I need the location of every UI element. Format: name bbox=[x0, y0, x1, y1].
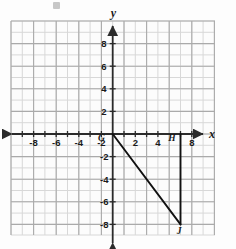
y-tick-label-2: 2 bbox=[101, 106, 106, 117]
y-tick-label-4: 4 bbox=[101, 83, 107, 94]
x-tick-label-neg8: -8 bbox=[29, 137, 37, 148]
y-tick-label-neg6: -6 bbox=[100, 196, 108, 207]
vertex-label-g: G bbox=[98, 133, 105, 143]
x-tick-label-8: 8 bbox=[189, 137, 194, 148]
figure-container: -8 -6 -4 -2 2 4 8 8 6 4 2 -2 -4 -6 -8 G … bbox=[0, 0, 236, 249]
x-tick-label-4: 4 bbox=[155, 137, 161, 148]
y-axis-name: y bbox=[109, 6, 117, 20]
vertex-label-j: J bbox=[176, 226, 182, 236]
y-tick-label-neg8: -8 bbox=[100, 219, 108, 230]
x-tick-label-neg4: -4 bbox=[75, 137, 84, 148]
vertex-label-h: H bbox=[167, 133, 176, 143]
x-tick-label-2: 2 bbox=[133, 137, 138, 148]
y-tick-label-neg2: -2 bbox=[100, 151, 108, 162]
x-tick-label-neg6: -6 bbox=[52, 137, 60, 148]
y-tick-label-neg4: -4 bbox=[100, 174, 109, 185]
y-tick-label-6: 6 bbox=[101, 61, 106, 72]
coordinate-plane-figure: -8 -6 -4 -2 2 4 8 8 6 4 2 -2 -4 -6 -8 G … bbox=[0, 0, 236, 249]
x-axis-name: x bbox=[208, 127, 215, 141]
y-tick-label-8: 8 bbox=[101, 38, 106, 49]
